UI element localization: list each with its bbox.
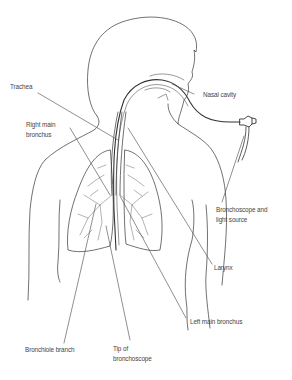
leader-tip-of-bronchoscope	[106, 226, 130, 340]
arm-inner-right	[206, 205, 210, 328]
label-trachea: Trachea	[10, 82, 32, 92]
leader-right-main-bronchus	[70, 128, 110, 195]
bronchoscope-handle	[240, 116, 256, 127]
arm-inner-left	[58, 200, 60, 282]
right-lung	[67, 150, 113, 252]
neck-right	[168, 104, 178, 124]
body-outline	[87, 17, 226, 285]
left-lung	[124, 150, 162, 251]
shoulder-left	[28, 116, 99, 300]
label-tip-of-bronchoscope: Tip of bronchoscope	[113, 344, 152, 364]
label-bronchoscope-light-source: Bronchoscope and light source	[216, 205, 267, 225]
label-bronchiole-branch: Bronchiole branch	[25, 345, 75, 355]
leader-larynx	[128, 128, 212, 264]
torso-right	[185, 200, 194, 330]
leader-bronchoscope	[222, 136, 244, 202]
label-larynx: Larynx	[214, 263, 232, 273]
label-right-main-bronchus: Right main bronchus	[26, 120, 55, 140]
label-left-main-bronchus: Left main bronchus	[190, 317, 242, 327]
leader-left-main-bronchus	[120, 196, 186, 318]
label-nasal-cavity: Nasal cavity	[203, 90, 236, 100]
bronchoscope-tube-inner	[117, 85, 188, 245]
bronchoscopy-diagram	[0, 0, 292, 380]
leader-bronchiole-branch	[64, 204, 96, 343]
leader-nasal-cavity	[172, 84, 194, 94]
light-source-cable	[238, 127, 249, 162]
